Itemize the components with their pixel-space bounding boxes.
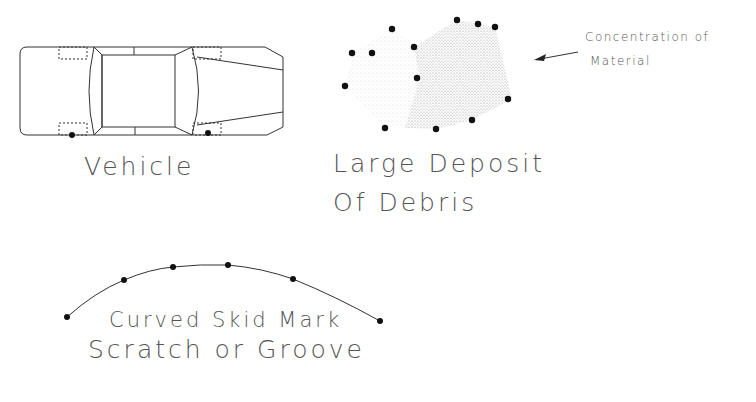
skid-label-line2: Scratch or Groove bbox=[88, 335, 365, 364]
legend-diagram: Vehicle Large Deposit Of Debris Concentr… bbox=[0, 0, 756, 402]
debris-label-line2: Of Debris bbox=[333, 188, 477, 217]
debris-deposit-icon bbox=[342, 17, 512, 132]
vehicle-icon bbox=[20, 47, 283, 138]
vehicle-label: Vehicle bbox=[84, 152, 194, 181]
arrow-left-icon bbox=[534, 52, 578, 61]
debris-label-line1: Large Deposit bbox=[333, 149, 545, 178]
skid-label-line1: Curved Skid Mark bbox=[109, 308, 342, 332]
annotation-line1: Concentration of bbox=[585, 30, 709, 44]
annotation-line2: Material bbox=[590, 54, 651, 68]
